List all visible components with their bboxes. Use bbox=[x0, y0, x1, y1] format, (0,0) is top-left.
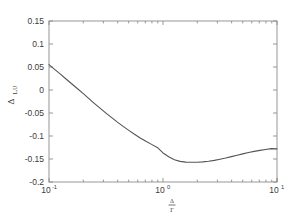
y-tick-label: -0.1 bbox=[29, 131, 44, 141]
y-tick-label: -0.05 bbox=[25, 108, 45, 118]
svg-text:10: 10 bbox=[155, 185, 165, 195]
svg-text:-1: -1 bbox=[52, 184, 57, 190]
data-series-line bbox=[49, 65, 277, 163]
svg-text:10: 10 bbox=[269, 185, 279, 195]
y-axis-title: ΔL,U bbox=[6, 86, 18, 105]
y-tick-label: 0.1 bbox=[32, 39, 44, 49]
y-tick-label: 0.05 bbox=[27, 62, 44, 72]
y-tick-label: 0 bbox=[39, 85, 44, 95]
x-tick-label: 101 bbox=[269, 184, 284, 195]
svg-text:Γ: Γ bbox=[170, 207, 174, 213]
x-axis-title: ΔΓ bbox=[169, 198, 176, 213]
plot-frame bbox=[49, 21, 277, 182]
x-axis-ticks: 10-1100101 bbox=[41, 21, 284, 195]
y-tick-label: -0.15 bbox=[25, 154, 45, 164]
svg-text:0: 0 bbox=[167, 184, 170, 190]
x-tick-label: 100 bbox=[155, 184, 170, 195]
figure-container: 0.150.10.050-0.05-0.1-0.15-0.210-1100101… bbox=[0, 0, 292, 214]
y-axis-ticks: 0.150.10.050-0.05-0.1-0.15-0.2 bbox=[25, 16, 277, 187]
svg-text:Δ: Δ bbox=[6, 98, 16, 104]
svg-text:L,U: L,U bbox=[12, 86, 18, 95]
x-tick-label: 10-1 bbox=[41, 184, 57, 195]
svg-text:1: 1 bbox=[281, 184, 284, 190]
y-tick-label: 0.15 bbox=[27, 16, 44, 26]
chart-canvas: 0.150.10.050-0.05-0.1-0.15-0.210-1100101… bbox=[0, 0, 292, 214]
svg-text:Δ: Δ bbox=[170, 198, 174, 204]
svg-text:10: 10 bbox=[41, 185, 51, 195]
